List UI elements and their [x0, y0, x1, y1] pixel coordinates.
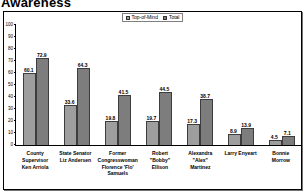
bar-group: 19.841.5: [98, 95, 139, 145]
y-axis-tick-label: 30: [3, 107, 13, 112]
bar-value-label: 19.8: [106, 116, 116, 121]
y-axis-tick-label: 100: [3, 23, 13, 28]
bar-value-label: 17.3: [187, 119, 197, 124]
bar-value-label: 44.5: [159, 87, 169, 92]
legend-item-total: Total: [163, 15, 180, 20]
bar-group: 60.172.9: [16, 58, 57, 145]
legend-swatch-top-of-mind-icon: [126, 16, 130, 20]
y-axis-tick-label: 80: [3, 47, 13, 52]
y-axis-tick-label: 70: [3, 59, 13, 64]
slide-canvas: Awareness Top-of-Mind Total 010203040506…: [0, 0, 307, 195]
chart-frame: Top-of-Mind Total 0102030405060708090100…: [3, 11, 302, 190]
bar-top-of-mind: 60.1: [23, 73, 36, 145]
y-axis-tick-label: 60: [3, 71, 13, 76]
bar-value-label: 38.7: [200, 94, 210, 99]
bar-top-of-mind: 33.6: [64, 105, 77, 145]
y-axis-tick-label: 0: [3, 143, 13, 148]
x-axis-category-label: Bonnie Morrow: [261, 150, 301, 177]
bar-group: 4.57.1: [261, 136, 302, 145]
bar-top-of-mind: 8.9: [228, 134, 241, 145]
bar-total: 72.9: [36, 58, 49, 145]
x-axis-category-label: County Supervisor Ken Arriola: [15, 150, 55, 177]
y-axis-tick-label: 20: [3, 119, 13, 124]
bar-value-label: 72.9: [37, 53, 47, 58]
x-axis-category-label: Alexandra "Alex" Martinez: [180, 150, 220, 177]
plot-area: 0102030405060708090100 60.172.933.664.31…: [15, 25, 302, 146]
bar-top-of-mind: 17.3: [187, 124, 200, 145]
x-axis-category-label: Larry Enyeart: [220, 150, 260, 177]
bar-value-label: 60.1: [24, 68, 34, 73]
y-axis-tick-label: 50: [3, 83, 13, 88]
legend: Top-of-Mind Total: [122, 13, 184, 22]
bar-group: 19.744.5: [139, 92, 180, 145]
y-axis-tick-label: 40: [3, 95, 13, 100]
bar-groups: 60.172.933.664.319.841.519.744.517.338.7…: [16, 25, 302, 145]
y-axis-tick-label: 90: [3, 35, 13, 40]
legend-item-top-of-mind: Top-of-Mind: [126, 15, 158, 20]
bar-value-label: 33.6: [65, 100, 75, 105]
bar-top-of-mind: 4.5: [269, 140, 282, 145]
bar-total: 7.1: [282, 136, 295, 145]
x-axis: County Supervisor Ken ArriolaState Senat…: [15, 150, 301, 177]
bar-group: 8.913.9: [220, 128, 261, 145]
bar-group: 33.664.3: [57, 68, 98, 145]
bar-total: 38.7: [200, 99, 213, 145]
x-axis-category-label: State Senator Liz Andersen: [55, 150, 95, 177]
bar-value-label: 19.7: [146, 116, 156, 121]
bar-total: 64.3: [77, 68, 90, 145]
bar-value-label: 4.5: [271, 135, 278, 140]
bar-value-label: 13.9: [241, 123, 251, 128]
legend-swatch-total-icon: [163, 16, 167, 20]
bar-total: 13.9: [241, 128, 254, 145]
bar-group: 17.338.7: [179, 99, 220, 145]
x-axis-category-label: Robert "Bobby" Ellison: [140, 150, 180, 177]
y-axis-tick-label: 10: [3, 131, 13, 136]
bar-value-label: 7.1: [284, 131, 291, 136]
bar-value-label: 64.3: [78, 63, 88, 68]
bar-total: 44.5: [159, 92, 172, 145]
bar-value-label: 41.5: [119, 90, 129, 95]
x-axis-category-label: Former Congresswoman Florence 'Flo' Samu…: [96, 150, 140, 177]
bar-top-of-mind: 19.8: [105, 121, 118, 145]
chart-title: Awareness: [1, 0, 71, 10]
bar-total: 41.5: [118, 95, 131, 145]
legend-label-top-of-mind: Top-of-Mind: [132, 15, 158, 20]
legend-label-total: Total: [169, 15, 180, 20]
bar-value-label: 8.9: [230, 129, 237, 134]
bar-top-of-mind: 19.7: [146, 121, 159, 145]
